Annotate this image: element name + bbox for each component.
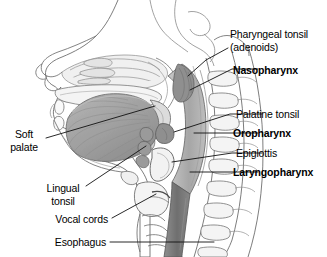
pharyngeal-tonsil-adenoids (173, 64, 194, 102)
label-vocal-cords: Vocal cords (34, 213, 108, 226)
anatomy-figure: Pharyngeal tonsil (adenoids) Nasopharynx… (0, 0, 327, 257)
hyoid-bone (121, 171, 138, 184)
teeth (54, 100, 64, 130)
label-lingual-tonsil-line2: tonsil (40, 195, 86, 208)
label-soft-palate: Soft palate (2, 128, 46, 153)
label-oropharynx: Oropharynx (233, 127, 291, 140)
label-esophagus: Esophagus (38, 236, 106, 249)
palatine-tonsil (156, 124, 174, 144)
label-palatine-tonsil: Palatine tonsil (236, 108, 299, 121)
esophagus (164, 182, 190, 257)
label-pharyngeal-tonsil-line1: Pharyngeal tonsil (230, 28, 308, 41)
label-laryngopharynx: Laryngopharynx (233, 166, 313, 179)
label-pharyngeal-tonsil-line2: (adenoids) (230, 41, 308, 54)
cranium-contour (150, 0, 215, 66)
label-epiglottis: Epiglottis (236, 147, 277, 160)
label-nasopharynx: Nasopharynx (233, 64, 298, 77)
label-soft-palate-line2: palate (2, 141, 46, 154)
label-pharyngeal-tonsil: Pharyngeal tonsil (adenoids) (230, 28, 308, 53)
label-lingual-tonsil-line1: Lingual (40, 182, 86, 195)
label-lingual-tonsil: Lingual tonsil (40, 182, 86, 207)
tongue (66, 94, 159, 168)
label-soft-palate-line1: Soft (2, 128, 46, 141)
epiglottis (150, 148, 174, 181)
